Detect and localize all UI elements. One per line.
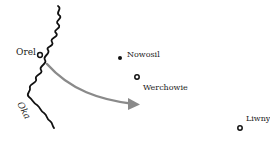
liwny-marker[interactable] xyxy=(238,126,242,130)
liwny-label: Liwny xyxy=(246,115,270,123)
map-canvas xyxy=(0,0,270,143)
arrow-head-icon xyxy=(128,98,140,110)
orel-label: Orel xyxy=(16,48,36,57)
nowosil-label: Nowosil xyxy=(127,51,160,59)
oka-river xyxy=(28,6,61,128)
orel-marker[interactable] xyxy=(38,53,43,58)
werchowie-marker[interactable] xyxy=(135,75,139,79)
nowosil-marker[interactable] xyxy=(118,56,122,60)
werchowie-label: Werchowie xyxy=(143,84,188,92)
movement-arrow xyxy=(47,64,134,104)
